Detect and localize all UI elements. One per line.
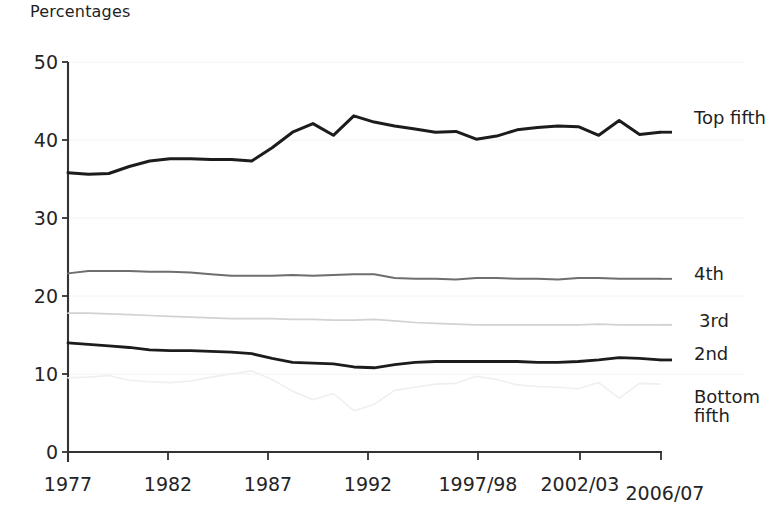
x-axis-tick-1997-98: 1997/98 [439,473,518,495]
series-line-bottom-fifth [68,371,660,411]
series-line-4th [68,271,660,280]
x-axis-tick-1987: 1987 [244,473,292,495]
x-axis-tick-2006-07: 2006/07 [626,482,705,504]
series-label-4th: 4th [694,264,724,283]
series-label-2nd: 2nd [694,344,728,363]
line-chart-plot [0,0,770,518]
x-axis-tick-1982: 1982 [144,473,192,495]
series-line-2nd [68,343,660,368]
series-label-3rd: 3rd [699,311,729,330]
x-axis-tick-1992: 1992 [344,473,392,495]
series-label-line-1: Bottom [694,387,760,406]
series-label-top-fifth: Top fifth [694,108,766,127]
x-axis-tick-1977: 1977 [44,473,92,495]
series-label-line-2: fifth [694,406,760,425]
series-line-3rd [68,313,660,325]
series-label-bottom-fifth: Bottomfifth [694,387,760,426]
x-axis-tick-2002-03: 2002/03 [541,473,620,495]
chart-container: Percentages 01020304050 1977198219871992… [0,0,770,518]
series-line-top-fifth [68,116,660,175]
